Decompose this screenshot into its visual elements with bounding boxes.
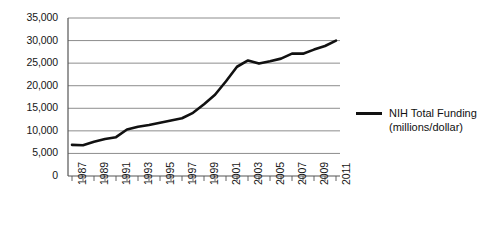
x-axis-tick-label: 1995 [164, 162, 176, 185]
x-axis-tick-label: 2011 [340, 163, 352, 185]
x-axis-tick-label: 1991 [120, 162, 132, 185]
x-axis-tick-label: 2005 [274, 162, 286, 185]
x-axis-tick-label: 1987 [76, 162, 88, 185]
chart-legend: NIH Total Funding (millions/dollar) [356, 106, 502, 134]
x-axis-tick-label: 1989 [98, 162, 110, 185]
x-axis-tick-label: 1997 [186, 162, 198, 185]
x-axis-tick-label: 2009 [318, 162, 330, 185]
x-axis-tick-label: 1999 [208, 162, 220, 185]
legend-label-line1: NIH Total Funding [389, 107, 477, 119]
legend-color-swatch [356, 112, 382, 115]
x-axis-tick-label: 2003 [252, 162, 264, 185]
x-axis-tick-label: 1993 [142, 162, 154, 185]
legend-label-line2: (millions/dollar) [389, 120, 477, 134]
nih-funding-line-chart: 35,00030,00025,00020,00015,00010,0005,00… [0, 0, 502, 248]
x-axis-tick-label: 2001 [230, 162, 242, 185]
x-axis-tick-label: 2007 [296, 162, 308, 185]
legend-label: NIH Total Funding (millions/dollar) [389, 106, 477, 134]
